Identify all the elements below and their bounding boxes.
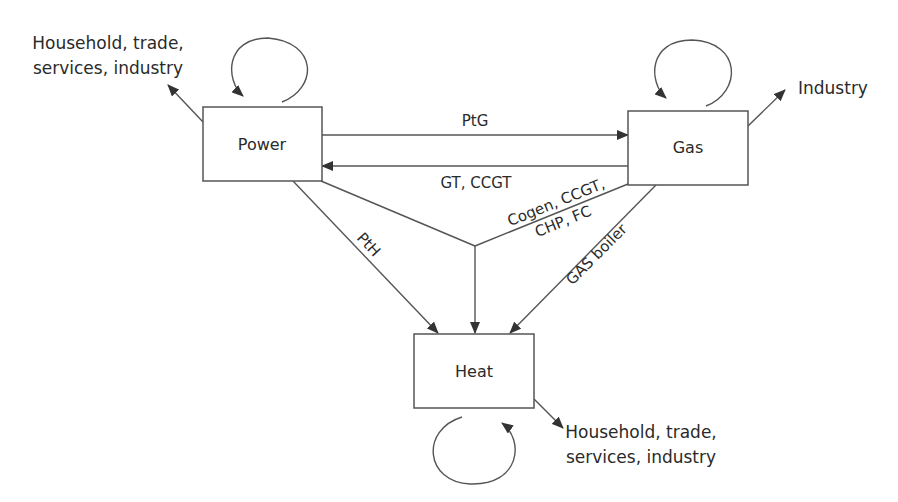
gt-ccgt-label: GT, CCGT [441,174,513,192]
power-demand-label-line2: services, industry [33,58,183,78]
power-self-loop-arrow [232,38,308,102]
pth-label: PtH [353,229,384,260]
gas-label: Gas [673,138,704,157]
power-label: Power [238,135,287,154]
gas-industry-arrow [748,90,785,126]
heat-demand-arrow [534,399,563,428]
heat-self-loop-arrow [433,417,515,484]
heat-demand-label-line2: services, industry [566,447,716,467]
heat-demand-label-line1: Household, trade, [565,422,717,442]
gas-self-loop-arrow [655,40,732,106]
power-demand-arrow [168,85,203,122]
energy-diagram: Power Gas Heat Household, trade, service… [0,0,898,502]
gas-boiler-label: GAS boiler [562,220,631,289]
industry-label: Industry [798,78,868,98]
power-demand-label-line1: Household, trade, [32,33,184,53]
pth-arrow [293,181,438,333]
heat-label: Heat [455,362,493,381]
ptg-label: PtG [462,112,489,130]
